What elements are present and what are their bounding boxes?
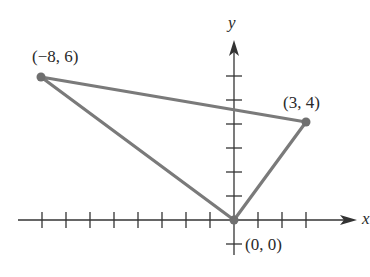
vertex-point — [37, 73, 46, 82]
vertex-label: (−8, 6) — [32, 47, 78, 66]
vertex-label: (3, 4) — [283, 93, 320, 112]
vertex-point — [302, 118, 311, 127]
vertex-label: (0, 0) — [245, 235, 282, 254]
y-axis-label: y — [226, 13, 236, 32]
vertex-point — [230, 216, 239, 225]
x-axis-label: x — [361, 209, 370, 228]
coordinate-plane: (−8, 6) (3, 4) (0, 0) x y — [0, 0, 370, 277]
triangle — [41, 77, 306, 220]
